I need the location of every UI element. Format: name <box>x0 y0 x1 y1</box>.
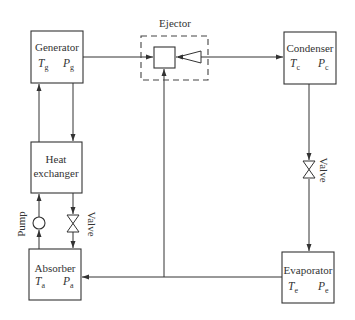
evaporator-block: Evaporator Te Pe <box>282 252 334 303</box>
pump-block: Pump <box>15 211 45 237</box>
evaporator-label: Evaporator <box>284 264 333 276</box>
refrigeration-cycle-diagram: Generator Tg Pg Ejector Condenser Tc Pc … <box>0 0 355 320</box>
valve-right-icon <box>303 161 315 178</box>
absorber-label: Absorber <box>35 262 76 274</box>
valve-left-icon <box>67 215 79 232</box>
generator-label: Generator <box>35 41 79 53</box>
condenser-label: Condenser <box>286 42 333 54</box>
ejector-block: Ejector <box>141 17 208 80</box>
heat-exchanger-label-line1: Heat <box>46 153 67 165</box>
valve-left-block: Valve <box>67 211 98 236</box>
heat-exchanger-block: Heat exchanger <box>31 142 82 193</box>
heat-exchanger-label-line2: exchanger <box>33 167 79 179</box>
ejector-nozzle-icon <box>178 51 201 63</box>
pump-label: Pump <box>15 211 27 237</box>
pump-icon <box>33 217 45 229</box>
ejector-mixing-chamber <box>154 47 175 68</box>
valve-right-block: Valve <box>303 157 330 182</box>
valve-left-label: Valve <box>86 211 98 236</box>
ejector-label: Ejector <box>159 17 191 29</box>
valve-right-label: Valve <box>318 157 330 182</box>
absorber-block: Absorber Ta Pa <box>29 249 81 300</box>
generator-block: Generator Tg Pg <box>31 31 83 83</box>
evaporator-box <box>282 252 334 303</box>
condenser-block: Condenser Tc Pc <box>284 32 336 84</box>
